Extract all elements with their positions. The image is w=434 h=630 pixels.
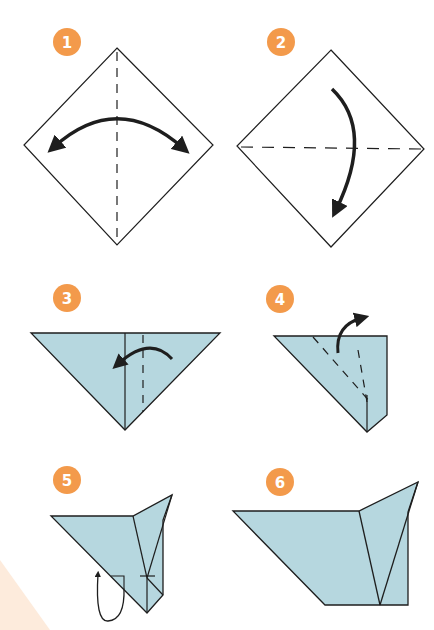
corner-tint: [0, 560, 50, 630]
step-4: 4: [266, 285, 387, 432]
step-number: 3: [62, 290, 72, 308]
step-2: 2: [237, 28, 424, 247]
step-5: 5: [51, 466, 172, 621]
step-1: 1: [24, 28, 213, 245]
step-number: 1: [62, 34, 72, 52]
paper-shape: [233, 482, 418, 605]
step-number: 6: [275, 474, 285, 492]
step-3: 3: [31, 284, 220, 430]
step-number: 5: [62, 472, 72, 490]
step-number: 4: [275, 291, 285, 309]
origami-instructions: 1 2 3 4 5: [0, 0, 434, 630]
step-6: 6: [233, 468, 418, 605]
paper-square: [24, 48, 213, 245]
step-number: 2: [276, 34, 286, 52]
paper-shape: [274, 336, 387, 432]
